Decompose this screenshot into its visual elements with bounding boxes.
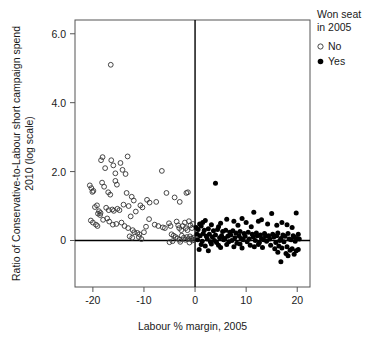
data-point: [108, 62, 113, 67]
data-point: [206, 248, 211, 253]
x-tick-label: 10: [240, 294, 252, 306]
legend-title-line2: in 2005: [317, 21, 352, 33]
data-point: [203, 244, 208, 249]
data-point: [269, 211, 274, 216]
data-point: [296, 247, 301, 252]
chart-canvas: -20-100102002.04.06.0Labour % margin, 20…: [0, 0, 374, 343]
data-point: [123, 172, 128, 177]
scatter-plot-figure: -20-100102002.04.06.0Labour % margin, 20…: [0, 0, 374, 343]
data-point: [195, 237, 200, 242]
data-point: [279, 220, 284, 225]
axis-labels-layer: -20-100102002.04.06.0Labour % margin, 20…: [10, 26, 303, 332]
data-point: [200, 220, 205, 225]
data-point: [224, 217, 229, 222]
data-point: [197, 247, 202, 252]
y-tick-label: 6.0: [51, 28, 66, 40]
data-point: [213, 232, 218, 237]
data-point: [118, 161, 123, 166]
legend-marker-yes: [318, 59, 324, 65]
y-axis-label-line1: Ratio of Conservative-to-Labour short ca…: [10, 26, 22, 281]
data-point: [275, 250, 280, 255]
data-point: [121, 202, 126, 207]
data-point: [282, 234, 287, 239]
legend-label-no: No: [328, 40, 342, 52]
data-point: [209, 222, 214, 227]
axes-layer: [70, 20, 310, 292]
data-point: [125, 154, 130, 159]
data-point: [235, 223, 240, 228]
data-point: [215, 227, 220, 232]
data-point: [126, 204, 131, 209]
legend-title-line1: Won seat: [317, 8, 361, 20]
data-point: [228, 232, 233, 237]
data-point: [224, 242, 229, 247]
data-point: [221, 237, 226, 242]
data-point: [274, 233, 279, 238]
y-tick-label: 0: [60, 234, 66, 246]
data-point: [213, 181, 218, 186]
data-point: [209, 241, 214, 246]
data-point: [286, 253, 291, 258]
data-point: [177, 200, 182, 205]
data-point: [278, 259, 283, 264]
data-point: [285, 222, 290, 227]
data-point: [249, 224, 254, 229]
data-point: [297, 237, 302, 242]
data-point: [229, 238, 234, 243]
data-point: [256, 242, 261, 247]
data-point: [240, 216, 245, 221]
data-point: [218, 245, 223, 250]
data-point: [142, 230, 147, 235]
y-tick-label: 4.0: [51, 97, 66, 109]
series-yes: [194, 181, 302, 265]
data-point: [292, 252, 297, 257]
data-point: [260, 245, 265, 250]
data-point: [144, 224, 149, 229]
data-point: [128, 214, 133, 219]
data-point: [206, 226, 211, 231]
data-point: [240, 246, 245, 251]
legend: Won seatin 2005NoYes: [317, 8, 361, 67]
data-point: [102, 184, 107, 189]
data-point: [281, 239, 286, 244]
data-point: [103, 166, 108, 171]
data-point: [133, 209, 138, 214]
series-no: [87, 62, 196, 245]
y-axis-label-line2: 2010 (log scale): [23, 116, 35, 191]
x-axis-label: Labour % margin, 2005: [138, 320, 247, 332]
data-point: [279, 246, 284, 251]
data-point: [244, 220, 249, 225]
data-point: [231, 219, 236, 224]
data-point: [265, 221, 270, 226]
data-point: [113, 171, 118, 176]
data-point: [124, 191, 129, 196]
data-point: [294, 210, 299, 215]
y-tick-label: 2.0: [51, 166, 66, 178]
x-tick-label: 20: [291, 294, 303, 306]
data-point: [164, 191, 169, 196]
data-point: [290, 225, 295, 230]
data-point: [109, 158, 114, 163]
legend-marker-no: [318, 44, 323, 49]
data-point: [256, 219, 261, 224]
data-point: [147, 217, 152, 222]
data-point: [172, 195, 177, 200]
data-point: [154, 200, 159, 205]
data-point: [131, 198, 136, 203]
data-point: [231, 244, 236, 249]
data-point: [251, 210, 256, 215]
x-tick-label: -10: [136, 294, 151, 306]
x-tick-label: 0: [192, 294, 198, 306]
data-point: [159, 169, 164, 174]
data-point: [264, 239, 269, 244]
data-point: [255, 233, 260, 238]
x-tick-label: -20: [85, 294, 100, 306]
data-point: [274, 223, 279, 228]
legend-label-yes: Yes: [328, 55, 345, 67]
data-point: [111, 163, 116, 168]
data-point: [268, 243, 273, 248]
